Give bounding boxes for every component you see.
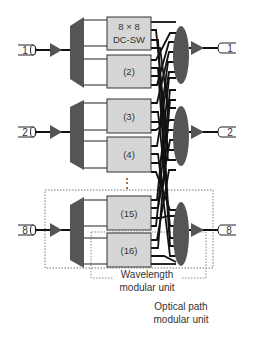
multiplexer [173,26,189,84]
channel-group-1: 1 8 × 8 DC-SW (2) 1 [18,17,236,88]
wavelength-unit-label: modular unit [119,282,174,293]
output-port-label: 2 [227,127,233,138]
channel-group-2: 2 (3) (4) 2 [18,99,236,172]
switch-label: (16) [121,245,138,256]
input-port-label: 8 [22,225,28,236]
output-port-label: 8 [226,225,232,236]
output-port-2: 2 [218,127,236,138]
input-port-2: 2 [18,127,36,138]
switch-label: (4) [123,149,135,160]
switch-label: (15) [121,208,138,219]
demultiplexer [70,17,84,88]
switch-label: 8 × 8 [118,21,139,32]
optical-cross-connect-diagram: 1 8 × 8 DC-SW (2) 1 2 [0,0,254,341]
amplifier-triangle-icon [50,43,62,57]
ellipsis-icon: ⋮ [121,176,133,190]
amplifier-triangle-icon [191,223,204,237]
output-port-8: 8 [218,225,236,236]
amplifier-triangle-icon [50,125,62,139]
input-port-1: 1 [18,45,36,56]
optical-path-unit-label: Optical path [154,301,207,312]
amplifier-triangle-icon [50,223,62,237]
multiplexer [173,106,189,166]
optical-path-unit-label: modular unit [153,314,208,325]
output-port-label: 1 [227,43,233,54]
wavelength-unit-label: Wavelength [121,269,173,280]
demultiplexer [70,100,84,170]
demultiplexer [70,197,84,268]
amplifier-triangle-icon [191,41,204,55]
switch-label: (3) [123,111,135,122]
switch-label: (2) [123,66,135,77]
switch-label: DC-SW [113,34,145,45]
input-port-label: 1 [22,45,28,56]
interconnect-mesh [151,22,176,264]
input-port-label: 2 [22,127,28,138]
multiplexer [173,202,189,266]
input-port-8: 8 [18,225,36,236]
output-port-1: 1 [218,43,236,54]
amplifier-triangle-icon [191,125,204,139]
